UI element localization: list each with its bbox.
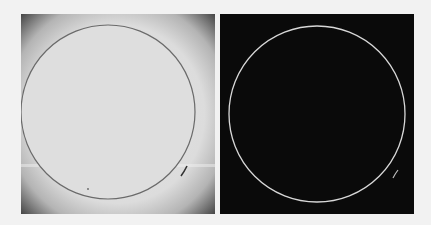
speck xyxy=(87,188,89,190)
image-background xyxy=(220,14,414,214)
panel-edge-detected-image xyxy=(220,14,414,214)
panel-original-disc-image xyxy=(21,14,215,214)
edge-image xyxy=(220,14,414,214)
disc-image xyxy=(21,14,215,214)
disc-outline xyxy=(21,25,195,199)
